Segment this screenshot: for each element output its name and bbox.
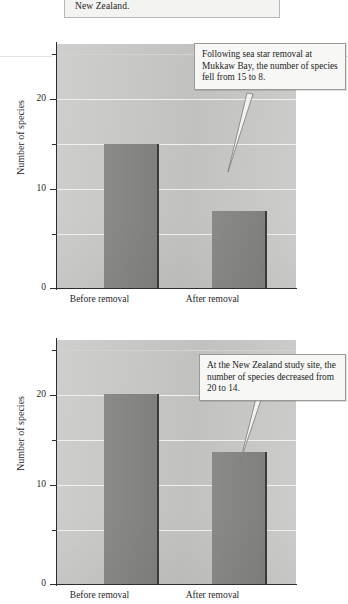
y-tick-25: [52, 54, 57, 55]
gridline-15: [57, 144, 296, 145]
y-tick-label-0: 0: [41, 577, 46, 590]
y-tick-label-0: 0: [41, 281, 46, 294]
bar-after-removal: [212, 452, 267, 584]
y-tick-15: [52, 144, 57, 145]
scan-artifact-line: [0, 56, 52, 57]
gridline-15: [57, 440, 296, 441]
callout-text: Following sea star removal at Mukkaw Bay…: [202, 49, 339, 84]
bar-after-removal: [212, 211, 267, 288]
bar-before-removal: [104, 144, 159, 288]
gridline-25: [57, 350, 296, 351]
y-tick-5: [52, 234, 57, 235]
y-tick-label-20: 20: [37, 388, 47, 401]
bar-before-removal: [104, 394, 159, 584]
x-axis-line: [56, 288, 297, 289]
callout-box: Following sea star removal at Mukkaw Bay…: [194, 43, 346, 90]
x-category-label-before: Before removal: [57, 590, 142, 600]
callout-text: At the New Zealand study site, the numbe…: [207, 360, 339, 395]
y-tick-0: 0: [50, 288, 57, 289]
y-tick-label-10: 10: [37, 478, 47, 491]
gridline-20: [57, 99, 296, 100]
y-tick-10: 10: [50, 485, 57, 486]
x-category-label-after: After removal: [170, 294, 255, 304]
x-category-label-before: Before removal: [57, 294, 142, 304]
y-tick-5: [52, 530, 57, 531]
caption-box: New Zealand.: [64, 0, 280, 18]
y-tick-label-10: 10: [37, 182, 47, 195]
y-tick-0: 0: [50, 584, 57, 585]
y-axis-line: [56, 338, 57, 586]
y-tick-10: 10: [50, 189, 57, 190]
y-tick-20: 20: [50, 395, 57, 396]
y-tick-15: [52, 440, 57, 441]
caption-text: New Zealand.: [75, 1, 129, 11]
y-tick-label-20: 20: [37, 92, 47, 105]
y-axis-title: Number of species: [15, 78, 26, 198]
gridline-10: [57, 189, 296, 190]
callout-box: At the New Zealand study site, the numbe…: [199, 354, 346, 401]
y-axis-title: Number of species: [15, 374, 26, 494]
x-axis-line: [56, 584, 297, 585]
y-axis-line: [56, 42, 57, 290]
y-tick-20: 20: [50, 99, 57, 100]
x-category-label-after: After removal: [170, 590, 255, 600]
y-tick-25: [52, 350, 57, 351]
